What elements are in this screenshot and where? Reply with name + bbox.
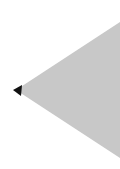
arrow-left-icon [13,85,22,96]
triangle-left-icon [16,22,120,158]
canvas [0,0,120,169]
triangle-graphic [0,0,120,169]
